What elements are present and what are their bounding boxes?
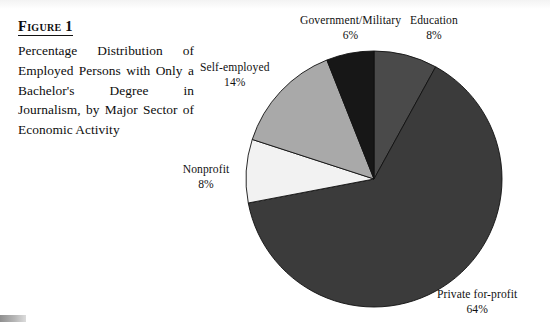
pie-label-self-employed-name: Self-employed <box>200 61 270 76</box>
pie-chart-svg <box>0 0 550 330</box>
pie-label-government-military-value: 6% <box>300 29 401 44</box>
pie-chart: Government/Military 6% Education 8% Self… <box>0 0 550 330</box>
pie-label-nonprofit: Nonprofit 8% <box>175 163 237 193</box>
pie-label-private-for-profit-name: Private for-profit <box>437 288 517 303</box>
pie-label-private-for-profit-value: 64% <box>437 303 517 318</box>
pie-label-nonprofit-name: Nonprofit <box>175 163 237 178</box>
pie-slice-group <box>246 51 502 307</box>
pie-label-education-name: Education <box>410 14 458 29</box>
pie-label-nonprofit-value: 8% <box>175 178 237 193</box>
pie-label-government-military-name: Government/Military <box>300 14 401 29</box>
pie-label-education-value: 8% <box>410 29 458 44</box>
pie-label-government-military: Government/Military 6% <box>300 14 401 44</box>
pie-label-private-for-profit: Private for-profit 64% <box>437 288 517 318</box>
pie-label-education: Education 8% <box>410 14 458 44</box>
pie-label-self-employed: Self-employed 14% <box>200 61 270 91</box>
pie-label-self-employed-value: 14% <box>200 76 270 91</box>
